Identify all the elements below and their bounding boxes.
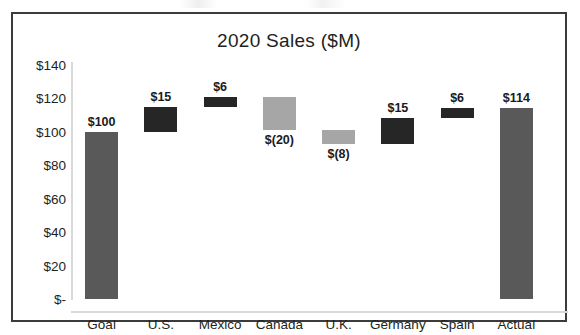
- x-tick-label-u-k: U.K.: [325, 317, 351, 332]
- y-tick-label-3: $80: [43, 158, 66, 173]
- x-tick-label-u-s: U.S.: [148, 317, 174, 332]
- x-tick-label-mexico: Mexico: [199, 317, 242, 332]
- bar-value-label-6: $6: [450, 91, 464, 105]
- x-tick-label-spain: Spain: [440, 317, 475, 332]
- y-tick-label-0: $140: [36, 58, 66, 73]
- x-tick-label-germany: Germany: [370, 317, 426, 332]
- bar-goal[interactable]: [85, 132, 118, 299]
- bar-u-k[interactable]: [322, 130, 355, 143]
- bar-value-label-1: $15: [150, 90, 171, 104]
- y-tick-label-1: $120: [36, 91, 66, 106]
- bar-value-label-3: $(20): [265, 133, 294, 147]
- x-axis-tick-labels: GoalU.S.MexicoCanadaU.K.GermanySpainActu…: [13, 317, 580, 335]
- y-tick-label-6: $20: [43, 258, 66, 273]
- bar-spain[interactable]: [441, 108, 474, 118]
- y-tick-label-4: $60: [43, 191, 66, 206]
- bar-mexico[interactable]: [204, 97, 237, 107]
- bar-actual[interactable]: [500, 108, 533, 299]
- x-tick-label-canada: Canada: [256, 317, 303, 332]
- bar-value-label-0: $100: [88, 115, 116, 129]
- bar-germany[interactable]: [381, 118, 414, 143]
- bar-value-label-5: $15: [387, 101, 408, 115]
- chart-frame: 2020 Sales ($M) $140$120$100$80$60$40$20…: [11, 12, 567, 322]
- bar-value-label-2: $6: [213, 80, 227, 94]
- scan-artifact: [180, 0, 410, 8]
- chart-title: 2020 Sales ($M): [13, 30, 565, 52]
- bar-value-label-4: $(8): [328, 147, 350, 161]
- y-axis-tick-labels: $140$120$100$80$60$40$20$-: [19, 14, 66, 335]
- y-tick-label-2: $100: [36, 124, 66, 139]
- bar-u-s[interactable]: [144, 107, 177, 132]
- plot-area: [72, 63, 551, 299]
- x-tick-label-actual: Actual: [498, 317, 536, 332]
- bar-value-label-7: $114: [503, 91, 530, 105]
- y-tick-label-7: $-: [54, 292, 66, 307]
- bar-canada[interactable]: [263, 97, 296, 130]
- x-tick-label-goal: Goal: [87, 317, 116, 332]
- y-tick-label-5: $40: [43, 225, 66, 240]
- x-axis-line: [71, 311, 568, 313]
